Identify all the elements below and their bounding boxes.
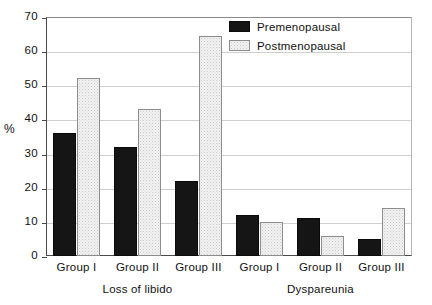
legend-swatch-premenopausal-icon — [229, 21, 250, 32]
bar-postmenopausal-6 — [382, 208, 405, 256]
bar-postmenopausal-4 — [260, 222, 283, 256]
legend-item-premenopausal: Premenopausal — [229, 18, 379, 35]
y-tick-label: 10 — [8, 215, 38, 227]
x-tick-label: Group III — [342, 261, 422, 273]
bar-postmenopausal-1 — [77, 78, 100, 256]
y-tick-mark — [42, 257, 47, 258]
legend-label-premenopausal: Premenopausal — [257, 21, 340, 33]
y-tick-label: 20 — [8, 181, 38, 193]
legend-label-postmenopausal: Postmenopausal — [257, 40, 345, 52]
bar-premenopausal-5 — [297, 218, 320, 256]
chart-legend: Premenopausal Postmenopausal — [229, 16, 379, 56]
bar-premenopausal-2 — [114, 147, 137, 256]
x-axis-group-labels: Loss of libidoDyspareunia — [46, 283, 412, 301]
legend-item-postmenopausal: Postmenopausal — [229, 37, 379, 54]
bar-premenopausal-3 — [175, 181, 198, 256]
x-group-label: Dyspareunia — [261, 283, 381, 295]
legend-swatch-postmenopausal-icon — [229, 40, 250, 51]
bar-premenopausal-1 — [53, 133, 76, 256]
x-axis-tick-labels: Group IGroup IIGroup IIIGroup IGroup IIG… — [46, 261, 412, 279]
y-tick-label: 70 — [8, 10, 38, 22]
bar-postmenopausal-3 — [199, 36, 222, 256]
y-tick-label: 50 — [8, 78, 38, 90]
bar-chart: % 706050403020100 Premenopausal Postmeno… — [0, 0, 432, 305]
bar-postmenopausal-2 — [138, 109, 161, 256]
bar-premenopausal-6 — [358, 239, 381, 256]
bar-postmenopausal-5 — [321, 236, 344, 256]
y-tick-label: 0 — [8, 249, 38, 261]
x-group-label: Loss of libido — [78, 283, 198, 295]
bar-premenopausal-4 — [236, 215, 259, 256]
y-tick-label: 60 — [8, 44, 38, 56]
y-tick-label: 40 — [8, 112, 38, 124]
y-tick-label: 30 — [8, 147, 38, 159]
